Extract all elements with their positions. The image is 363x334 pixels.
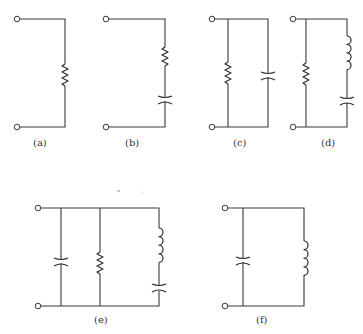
terminal-top bbox=[290, 16, 296, 22]
resistor-icon bbox=[225, 62, 231, 84]
circuit-figure: (a) (b) (c) bbox=[0, 0, 363, 334]
resistor-icon bbox=[303, 63, 309, 85]
circuit-label: (a) bbox=[33, 137, 47, 148]
capacitor-icon bbox=[152, 284, 166, 292]
inductor-icon bbox=[304, 241, 308, 275]
terminal-top bbox=[14, 16, 20, 22]
terminal-bottom bbox=[290, 124, 296, 130]
terminal-bottom bbox=[222, 303, 228, 309]
circuit-label: (f) bbox=[256, 314, 268, 325]
terminal-top bbox=[222, 205, 228, 211]
circuit-label: (d) bbox=[321, 137, 335, 148]
circuit-label: (b) bbox=[125, 137, 139, 148]
circuit-f: (f) bbox=[222, 205, 308, 325]
circuit-label: (c) bbox=[233, 137, 247, 148]
terminal-top bbox=[103, 16, 109, 22]
circuit-b: (b) bbox=[103, 16, 172, 148]
circuit-d: (d) bbox=[290, 16, 354, 148]
circuit-label: (e) bbox=[94, 314, 108, 325]
resistor-icon bbox=[97, 252, 103, 274]
terminal-bottom bbox=[209, 124, 215, 130]
terminal-top bbox=[35, 205, 41, 211]
circuit-a: (a) bbox=[14, 16, 68, 148]
terminal-top bbox=[209, 16, 215, 22]
inductor-icon bbox=[159, 228, 163, 262]
inductor-icon bbox=[347, 36, 351, 70]
circuit-e: (e) bbox=[35, 205, 166, 325]
scan-specks bbox=[117, 191, 144, 193]
circuit-c: (c) bbox=[209, 16, 275, 148]
terminal-bottom bbox=[14, 124, 20, 130]
terminal-bottom bbox=[103, 124, 109, 130]
terminal-bottom bbox=[35, 303, 41, 309]
resistor-icon bbox=[62, 64, 68, 86]
resistor-icon bbox=[162, 47, 168, 66]
